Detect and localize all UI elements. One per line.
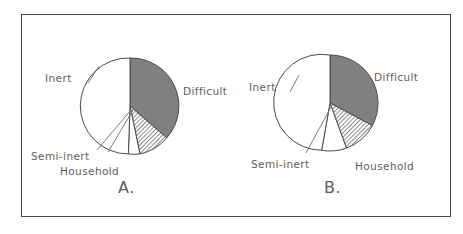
pie-b-label-household: Household	[355, 161, 414, 172]
pie-chart-b	[274, 54, 378, 153]
pie-a-label-household: Household	[60, 166, 119, 177]
pie-b-label-difficult: Difficult	[374, 72, 418, 83]
panel-b-letter: B.	[324, 180, 341, 196]
pie-charts-svg	[0, 0, 463, 234]
pie-a-label-inert: Inert	[45, 73, 72, 84]
pie-b-slice-inert[interactable]	[274, 54, 330, 150]
pie-a-label-difficult: Difficult	[183, 86, 227, 97]
pie-chart-a	[80, 58, 179, 154]
pie-a-label-semi-inert: Semi-inert	[31, 151, 90, 162]
figure-canvas: Inert Difficult Semi-inert Household A. …	[0, 0, 463, 234]
panel-a-letter: A.	[118, 180, 135, 196]
pie-b-label-semi-inert: Semi-inert	[251, 159, 310, 170]
pie-b-label-inert: Inert	[249, 82, 276, 93]
pie-a-slice-inert[interactable]	[80, 58, 130, 154]
